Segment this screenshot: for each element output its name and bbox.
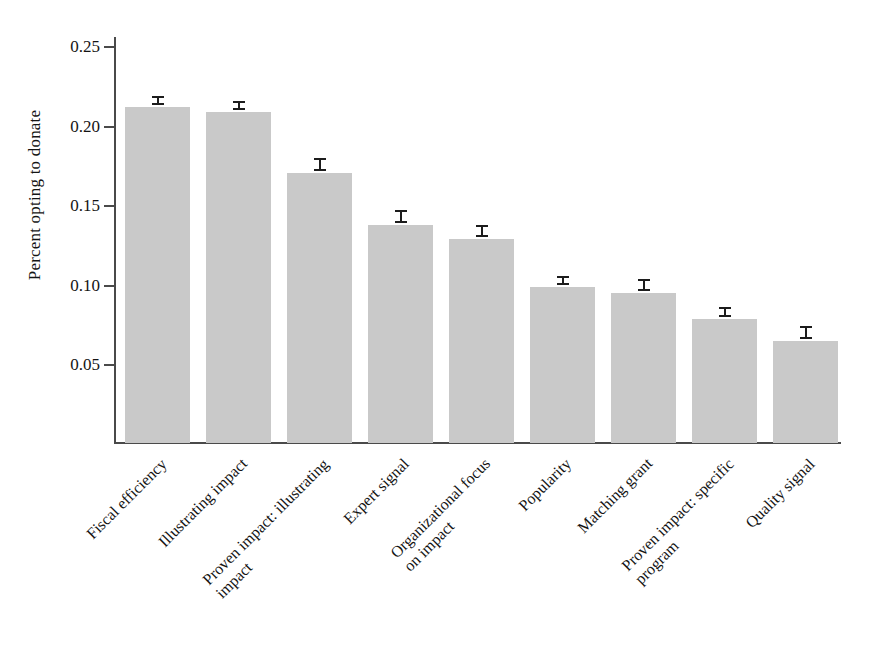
error-bar	[314, 158, 326, 171]
y-axis-tick-label-text: 0.25	[44, 38, 100, 55]
error-bar	[638, 279, 650, 292]
error-bar-cap-bottom	[476, 235, 488, 237]
x-axis-category-label: Matching grant	[574, 455, 657, 538]
error-bar-cap-top	[152, 96, 164, 98]
y-axis-tick-label: 0.10	[44, 277, 100, 294]
y-axis-tick	[104, 126, 115, 128]
bar	[530, 287, 595, 443]
x-axis-category-label-line: Popularity	[515, 455, 575, 515]
error-bar	[152, 96, 164, 106]
error-bar-cap-bottom	[800, 337, 812, 339]
y-axis-title: Percent opting to donate	[25, 75, 45, 315]
error-bar-cap-top	[476, 225, 488, 227]
error-bar-cap-top	[314, 158, 326, 160]
y-axis-tick-label-text: 0.20	[44, 118, 100, 135]
error-bar	[800, 326, 812, 339]
y-axis-tick-label-text: 0.05	[44, 356, 100, 373]
y-axis-tick	[104, 205, 115, 207]
y-axis-tick	[104, 285, 115, 287]
error-bar-cap-top	[638, 279, 650, 281]
error-bar-cap-top	[395, 210, 407, 212]
error-bar	[476, 225, 488, 238]
error-bar-cap-bottom	[719, 315, 731, 317]
bar-chart: Percent opting to donate 0.050.100.150.2…	[0, 0, 873, 649]
error-bar-cap-bottom	[557, 283, 569, 285]
bar	[611, 293, 676, 443]
error-bar-cap-top	[557, 276, 569, 278]
error-bar	[233, 101, 245, 111]
x-axis-category-label-line: impact	[212, 469, 346, 603]
y-axis-tick	[104, 46, 115, 48]
error-bar-cap-bottom	[395, 221, 407, 223]
x-axis-category-label-line: Matching grant	[574, 455, 657, 538]
error-bar-cap-bottom	[638, 289, 650, 291]
bar	[449, 239, 514, 443]
x-axis-category-label: Popularity	[515, 455, 575, 515]
y-axis-tick-label-text: 0.10	[44, 277, 100, 294]
error-bar-cap-bottom	[152, 103, 164, 105]
error-bar	[557, 276, 569, 286]
bar	[773, 341, 838, 443]
bar	[368, 225, 433, 443]
error-bar	[395, 210, 407, 223]
y-axis-tick-label: 0.05	[44, 356, 100, 373]
error-bar-cap-top	[719, 307, 731, 309]
bar	[287, 173, 352, 443]
bar	[125, 107, 190, 443]
y-axis-tick	[104, 364, 115, 366]
error-bar-cap-top	[800, 326, 812, 328]
bar	[206, 112, 271, 443]
y-axis-tick-label: 0.15	[44, 197, 100, 214]
y-axis-line	[114, 37, 116, 444]
x-axis-category-label-line: program	[631, 468, 751, 588]
error-bar-cap-bottom	[233, 108, 245, 110]
error-bar	[719, 307, 731, 317]
x-axis-category-label: Expert signal	[340, 455, 413, 528]
x-axis-category-label-line: Expert signal	[340, 455, 413, 528]
bar	[692, 319, 757, 443]
x-axis-category-label-line: Fiscal efficiency	[83, 455, 171, 543]
error-bar-cap-bottom	[314, 169, 326, 171]
y-axis-tick-label-text: 0.15	[44, 197, 100, 214]
y-axis-tick-label: 0.25	[44, 38, 100, 55]
x-axis-category-label-line: Quality signal	[742, 455, 819, 532]
y-axis-tick-label: 0.20	[44, 118, 100, 135]
x-axis-category-label: Fiscal efficiency	[83, 455, 171, 543]
x-axis-category-label: Quality signal	[742, 455, 819, 532]
error-bar-cap-top	[233, 101, 245, 103]
